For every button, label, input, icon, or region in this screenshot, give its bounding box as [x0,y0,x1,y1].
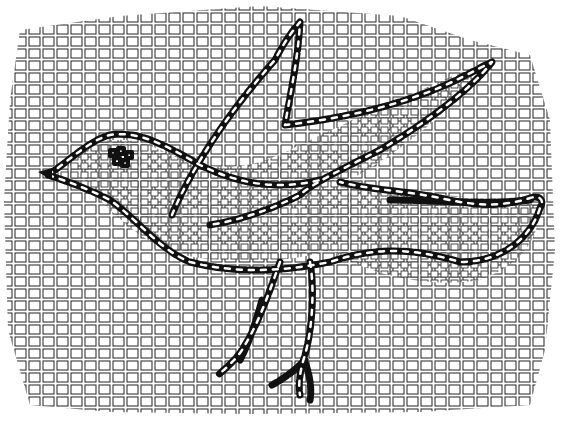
mosaic-bird-drawing [0,0,561,422]
